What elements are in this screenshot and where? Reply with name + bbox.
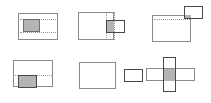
case-cell-overlap-top-right-corner xyxy=(140,0,210,51)
guide-line-horizontal-bottom xyxy=(20,32,56,33)
inner-rectangle xyxy=(106,20,125,33)
case-cell-overlap-bottom-left-edge xyxy=(0,52,70,103)
inner-rectangle xyxy=(18,75,37,88)
case-cell-contained xyxy=(0,0,70,51)
case-cell-cross-intersection xyxy=(140,52,210,103)
inner-rectangle xyxy=(184,6,203,19)
case-cell-disjoint xyxy=(70,52,140,103)
case-cell-overlap-right-edge xyxy=(70,0,140,51)
outer-rectangle xyxy=(79,62,116,89)
rectangle-intersection-figure xyxy=(0,0,211,103)
guide-line-horizontal xyxy=(154,19,190,20)
vertical-rectangle xyxy=(163,57,176,92)
inner-rectangle-filled xyxy=(23,19,40,32)
